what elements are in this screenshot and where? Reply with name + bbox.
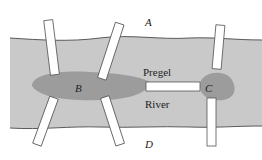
konigsberg-diagram: A B C D Pregel River xyxy=(0,0,262,160)
label-d: D xyxy=(144,138,153,150)
label-pregel: Pregel xyxy=(143,66,171,78)
bridge-7 xyxy=(207,98,216,146)
label-river: River xyxy=(145,98,170,110)
label-a: A xyxy=(144,16,152,28)
label-c: C xyxy=(205,82,213,94)
label-b: B xyxy=(75,82,82,94)
bridge-5 xyxy=(146,82,200,91)
